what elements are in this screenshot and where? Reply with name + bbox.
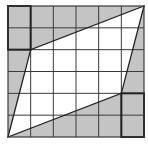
grid-diagram <box>0 0 148 145</box>
